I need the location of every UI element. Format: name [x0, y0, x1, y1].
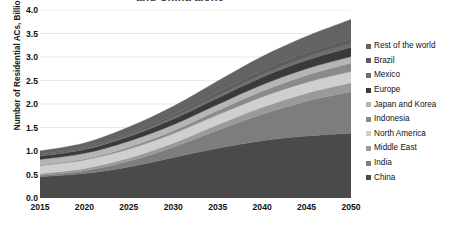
- x-axis-tick-label: 2020: [75, 202, 94, 212]
- legend-swatch-icon: [366, 102, 371, 107]
- y-axis-tick-label: 1.5: [4, 123, 38, 133]
- legend-swatch-icon: [366, 131, 371, 136]
- chart-title: and China alone: [0, 0, 360, 3]
- x-axis-tick-label: 2045: [297, 202, 316, 212]
- legend-item[interactable]: Japan and Korea: [366, 97, 452, 112]
- x-axis-tick-label: 2030: [164, 202, 183, 212]
- y-axis-tick-label: 2.0: [4, 99, 38, 109]
- legend-item[interactable]: India: [366, 156, 452, 171]
- legend-item-label: Brazil: [374, 57, 394, 65]
- x-axis-tick-label: 2035: [208, 202, 227, 212]
- x-axis-ticks: 20152020202520302035204020452050: [40, 200, 351, 222]
- y-axis-ticks: 0.00.51.01.52.02.53.03.54.0: [0, 10, 38, 198]
- legend-item-label: Middle East: [374, 144, 417, 152]
- y-axis-tick-label: 3.0: [4, 52, 38, 62]
- y-axis-tick-label: 3.5: [4, 29, 38, 39]
- y-axis-tick-label: 0.5: [4, 170, 38, 180]
- legend-item[interactable]: Indonesia: [366, 112, 452, 127]
- legend-item[interactable]: Rest of the world: [366, 39, 452, 54]
- legend-swatch-icon: [366, 146, 371, 151]
- legend-item[interactable]: Brazil: [366, 54, 452, 69]
- legend-item-label: North America: [374, 130, 426, 138]
- legend-item-label: Japan and Korea: [374, 101, 436, 109]
- legend-item[interactable]: Mexico: [366, 68, 452, 83]
- legend-swatch-icon: [366, 117, 371, 122]
- y-axis-tick-label: 4.0: [4, 5, 38, 15]
- legend-swatch-icon: [366, 161, 371, 166]
- legend-item-label: Europe: [374, 86, 400, 94]
- stacked-area-svg: [40, 10, 351, 198]
- legend-item-label: Mexico: [374, 71, 400, 79]
- legend-item-label: Rest of the world: [374, 42, 435, 50]
- x-axis-tick-label: 2040: [253, 202, 272, 212]
- legend-item-label: India: [374, 159, 392, 167]
- legend-item[interactable]: Europe: [366, 83, 452, 98]
- legend-item-label: Indonesia: [374, 115, 410, 123]
- x-axis-tick-label: 2050: [341, 202, 360, 212]
- x-axis-tick-label: 2025: [119, 202, 138, 212]
- chart-legend: Rest of the worldBrazilMexicoEuropeJapan…: [366, 39, 452, 185]
- legend-swatch-icon: [366, 88, 371, 93]
- y-axis-tick-label: 2.5: [4, 76, 38, 86]
- legend-swatch-icon: [366, 44, 371, 49]
- legend-item[interactable]: North America: [366, 127, 452, 142]
- plot-area: [40, 10, 351, 198]
- legend-swatch-icon: [366, 175, 371, 180]
- y-axis-tick-label: 1.0: [4, 146, 38, 156]
- chart-container: and China alone Number of Residential AC…: [0, 0, 452, 226]
- x-axis-tick-label: 2015: [30, 202, 49, 212]
- legend-item-label: China: [374, 174, 395, 182]
- legend-swatch-icon: [366, 73, 371, 78]
- legend-item[interactable]: Middle East: [366, 141, 452, 156]
- legend-item[interactable]: China: [366, 170, 452, 185]
- legend-swatch-icon: [366, 58, 371, 63]
